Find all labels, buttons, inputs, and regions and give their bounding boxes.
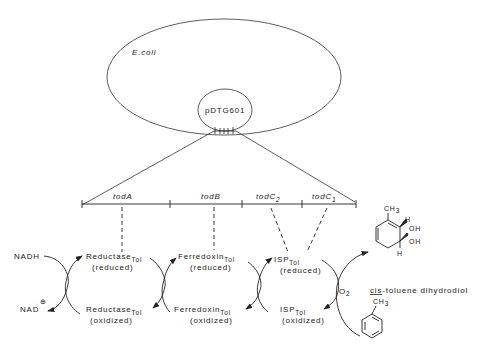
ferredoxin-oxidized: FerredoxinTol	[174, 305, 231, 316]
arrow-isp-oxidation	[322, 260, 339, 309]
cis-toluene-dihydrodiol-structure	[376, 213, 408, 248]
product-h-top: H	[405, 216, 411, 223]
reductase-oxidized: ReductaseTol	[86, 305, 142, 316]
ecoli-cell	[107, 19, 341, 135]
toluene-structure	[362, 306, 382, 338]
electron-arrow-ferredoxin-reduced	[162, 258, 176, 312]
product-name: cis-toluene dihydrodiol	[370, 286, 468, 295]
gene-todC2: todC2	[256, 192, 281, 203]
expansion-line-left	[82, 131, 214, 205]
isp-reduced-state: (reduced)	[280, 266, 321, 275]
expansion-line-right	[236, 131, 355, 202]
gene-map	[82, 200, 356, 208]
product-oh-bottom: OH	[409, 238, 421, 245]
electron-arrow-nadh	[44, 256, 68, 311]
nad-label: NAD	[20, 305, 39, 314]
product-h-bottom: H	[397, 250, 403, 257]
reductase-reduced: ReductaseTol	[86, 252, 142, 263]
reductase-reduced-state: (reduced)	[92, 263, 133, 272]
toluene-ch3: CH3	[373, 298, 389, 307]
o2-label: O2	[339, 287, 350, 297]
isp-oxidized: ISPTol	[280, 305, 306, 316]
gene-to-protein-dashes	[122, 207, 327, 252]
product-ch3: CH3	[384, 205, 400, 214]
gene-todB: todB	[201, 192, 221, 201]
gene-todA: todA	[113, 192, 133, 201]
ferredoxin-reduced-state: (reduced)	[190, 263, 231, 272]
plasmid-label: pDTG601	[205, 106, 245, 115]
nad-charge: ⊕	[40, 298, 47, 305]
product-oh-top: OH	[409, 225, 421, 232]
ecoli-label: E.coli	[132, 48, 156, 57]
nadh-label: NADH	[14, 252, 40, 261]
electron-arrow-isp-reduced	[257, 258, 272, 312]
electron-arrow-ferredoxin	[246, 262, 261, 309]
toluene-dioxygenase-diagram: E.coli pDTG601 todA todB todC2 todC1 NAD…	[0, 0, 488, 354]
gene-todC1: todC1	[312, 192, 337, 203]
isp-reduced: ISPTol	[274, 255, 300, 266]
reductase-oxidized-state: (oxidized)	[90, 316, 133, 325]
ferredoxin-reduced: FerredoxinTol	[178, 252, 235, 263]
ferredoxin-oxidized-state: (oxidized)	[190, 316, 233, 325]
isp-oxidized-state: (oxidized)	[282, 316, 325, 325]
